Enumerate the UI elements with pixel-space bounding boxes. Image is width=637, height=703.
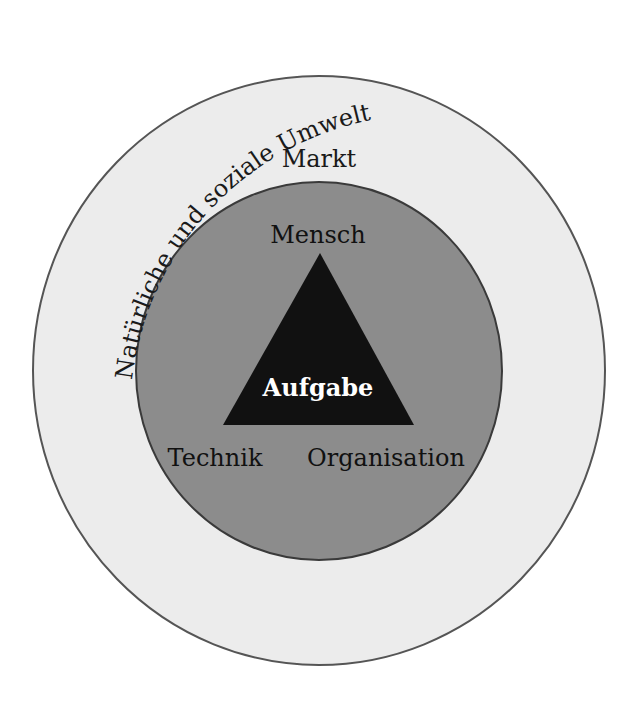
human-label: Mensch [270, 221, 365, 249]
task-label: Aufgabe [262, 373, 374, 402]
organization-label: Organisation [307, 444, 465, 472]
market-label: Markt [282, 145, 357, 173]
sociotechnical-system-diagram: Natürliche und soziale Umwelt Markt Mens… [0, 0, 637, 703]
technology-label: Technik [168, 444, 263, 472]
